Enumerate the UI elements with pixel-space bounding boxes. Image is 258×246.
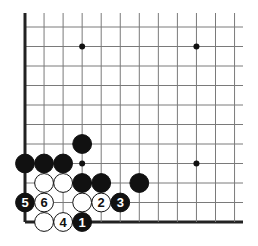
white-stone — [54, 174, 73, 193]
black-stone — [92, 174, 111, 193]
black-stone: 3 — [111, 193, 130, 212]
black-stone — [130, 174, 149, 193]
black-stone — [54, 154, 73, 173]
black-stone-circle — [130, 174, 149, 193]
white-stone-circle — [35, 213, 54, 232]
white-stone: 4 — [54, 213, 73, 232]
star-point — [79, 161, 85, 167]
black-stone — [35, 154, 54, 173]
black-stone-circle — [16, 154, 35, 173]
white-stone-circle — [35, 174, 54, 193]
black-stone-circle — [73, 135, 92, 154]
move-number: 2 — [98, 195, 105, 210]
move-number: 1 — [79, 215, 86, 230]
black-stone — [16, 154, 35, 173]
go-board: 562341 — [0, 0, 258, 246]
move-number: 6 — [40, 195, 47, 210]
white-stone: 2 — [92, 193, 111, 212]
white-stone-circle — [73, 193, 92, 212]
black-stone-circle — [54, 154, 73, 173]
white-stone — [35, 213, 54, 232]
black-stone — [73, 174, 92, 193]
star-point — [193, 161, 199, 167]
black-stone-circle — [35, 154, 54, 173]
move-number: 5 — [21, 195, 28, 210]
white-stone: 6 — [35, 193, 54, 212]
black-stone-circle — [73, 174, 92, 193]
white-stone-circle — [54, 174, 73, 193]
star-point — [193, 44, 199, 50]
white-stone — [73, 193, 92, 212]
star-point — [79, 44, 85, 50]
black-stone: 1 — [73, 213, 92, 232]
black-stone-circle — [92, 174, 111, 193]
black-stone: 5 — [16, 193, 35, 212]
white-stone — [35, 174, 54, 193]
black-stone — [73, 135, 92, 154]
move-number: 4 — [59, 215, 67, 230]
move-number: 3 — [117, 195, 124, 210]
